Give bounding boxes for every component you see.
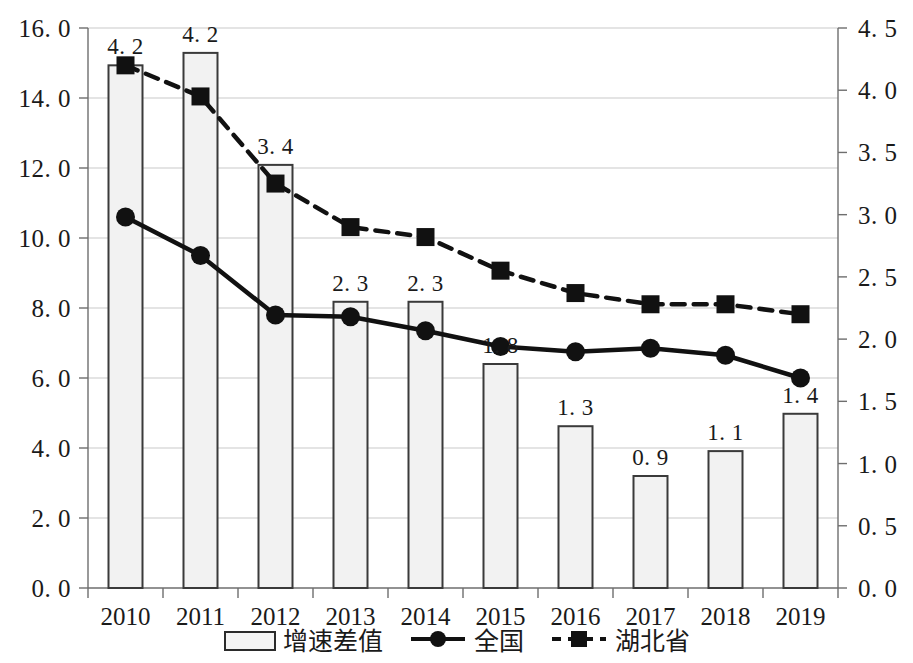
right-axis-tick-05: 0. 5 — [858, 514, 898, 539]
line-series-national — [116, 208, 810, 388]
left-axis-tick-60: 6. 0 — [32, 366, 72, 391]
bar-label-2016: 1. 3 — [538, 396, 613, 419]
right-axis-tick-45: 4. 5 — [858, 16, 898, 41]
chart-legend: 增速差值 全国 湖北省 — [0, 628, 913, 654]
left-axis-tick-140: 14. 0 — [19, 86, 72, 111]
left-axis-tick-00: 0. 0 — [32, 576, 72, 601]
right-axis-tick-30: 3. 0 — [858, 203, 898, 228]
square-dashed-line-icon — [550, 628, 608, 654]
line-series-hubei — [117, 56, 810, 323]
x-axis-tick-2017: 2017 — [613, 604, 688, 629]
bar-label-2015: 1. 8 — [463, 334, 538, 357]
right-axis-tick-00: 0. 0 — [858, 576, 898, 601]
x-axis-tick-2016: 2016 — [538, 604, 613, 629]
x-axis-tick-2013: 2013 — [313, 604, 388, 629]
left-axis-tick-100: 10. 0 — [19, 226, 72, 251]
bar-label-2013: 2. 3 — [313, 272, 388, 295]
chart-plot-area — [0, 0, 913, 663]
x-axis-tick-2012: 2012 — [238, 604, 313, 629]
legend-item-national[interactable]: 全国 — [409, 628, 524, 654]
right-axis-tick-15: 1. 5 — [858, 389, 898, 414]
legend-label-hubei: 湖北省 — [615, 629, 690, 654]
bar-label-2014: 2. 3 — [388, 272, 463, 295]
bar-series-growth-gap — [109, 53, 818, 588]
x-axis-tick-2019: 2019 — [763, 604, 838, 629]
legend-label-growth-gap: 增速差值 — [283, 629, 383, 654]
x-axis-tick-2018: 2018 — [688, 604, 763, 629]
legend-label-national: 全国 — [474, 629, 524, 654]
circle-solid-line-icon — [409, 628, 467, 654]
chart-container: 0. 02. 04. 06. 08. 010. 012. 014. 016. 0… — [0, 0, 913, 663]
right-axis-tick-20: 2. 0 — [858, 327, 898, 352]
left-axis-tick-40: 4. 0 — [32, 436, 72, 461]
bar-label-2010: 4. 2 — [88, 35, 163, 58]
left-axis-tick-160: 16. 0 — [19, 16, 72, 41]
bar-label-2019: 1. 4 — [763, 384, 838, 407]
legend-item-hubei[interactable]: 湖北省 — [550, 628, 690, 654]
x-axis-tick-2015: 2015 — [463, 604, 538, 629]
bar-label-2012: 3. 4 — [238, 135, 313, 158]
right-axis-tick-25: 2. 5 — [858, 265, 898, 290]
right-axis-tick-35: 3. 5 — [858, 140, 898, 165]
bar-label-2018: 1. 1 — [688, 421, 763, 444]
left-axis-tick-20: 2. 0 — [32, 506, 72, 531]
legend-item-growth-gap[interactable]: 增速差值 — [224, 629, 383, 654]
bar-swatch-icon — [224, 631, 276, 651]
bar-label-2017: 0. 9 — [613, 446, 688, 469]
bar-label-2011: 4. 2 — [163, 23, 238, 46]
x-axis-tick-2010: 2010 — [88, 604, 163, 629]
x-axis-tick-2011: 2011 — [163, 604, 238, 629]
left-axis-tick-80: 8. 0 — [32, 296, 72, 321]
right-axis-tick-40: 4. 0 — [858, 78, 898, 103]
x-axis-tick-2014: 2014 — [388, 604, 463, 629]
right-axis-tick-10: 1. 0 — [858, 452, 898, 477]
left-axis-tick-120: 12. 0 — [19, 156, 72, 181]
